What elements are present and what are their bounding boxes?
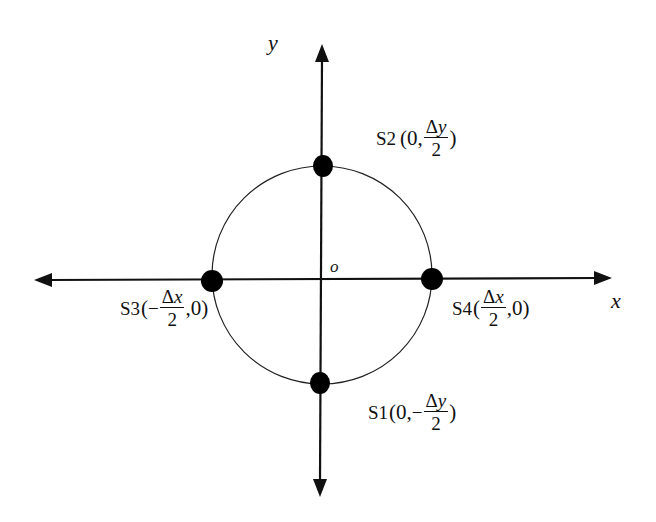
point-s4-name: S4 <box>452 299 472 318</box>
point-s2-prefix: (0, <box>400 128 423 149</box>
x-axis-left-arrow-icon <box>34 273 52 287</box>
point-s3-fraction: Δx 2 <box>160 287 185 329</box>
x-axis-right-arrow-icon <box>594 271 612 285</box>
y-axis <box>313 44 329 497</box>
point-s4-den: 2 <box>489 308 499 329</box>
point-s4-suffix: ,0) <box>507 298 530 319</box>
point-s1-marker <box>310 372 330 394</box>
point-s2-var: y <box>438 116 446 137</box>
x-axis <box>34 271 612 287</box>
delta-symbol: Δ <box>426 390 438 411</box>
y-axis-label: y <box>268 32 278 54</box>
point-s4-prefix: ( <box>473 298 480 319</box>
point-s1-sign: − <box>412 403 423 422</box>
point-s1-prefix: (0, <box>389 402 412 423</box>
point-s4-label: S4 ( Δx 2 ,0) <box>452 287 529 329</box>
point-s1-var: y <box>438 390 446 411</box>
point-s3-label: S3 ( − Δx 2 ,0) <box>120 287 208 329</box>
point-s2-label: S2 (0, Δy 2 ) <box>376 117 456 159</box>
delta-symbol: Δ <box>162 286 174 307</box>
point-s2-den: 2 <box>431 138 441 159</box>
point-s3-prefix: ( <box>141 298 148 319</box>
y-axis-up-arrow-icon <box>315 44 329 62</box>
point-s1-name: S1 <box>368 403 388 422</box>
point-s3-suffix: ,0) <box>185 298 208 319</box>
delta-symbol: Δ <box>426 116 438 137</box>
point-s4-marker <box>421 268 443 290</box>
point-s1-fraction: Δy 2 <box>424 391 449 433</box>
point-s3-name: S3 <box>120 299 140 318</box>
delta-symbol: Δ <box>483 286 495 307</box>
point-s4-var: x <box>495 286 503 307</box>
point-s2-marker <box>313 155 333 177</box>
point-s1-den: 2 <box>431 412 441 433</box>
y-axis-down-arrow-icon <box>313 479 327 497</box>
origin-label: o <box>330 258 339 275</box>
point-s2-suffix: ) <box>449 128 456 149</box>
point-s1-label: S1 (0, − Δy 2 ) <box>368 391 456 433</box>
point-s2-fraction: Δy 2 <box>424 117 449 159</box>
point-s1-suffix: ) <box>449 402 456 423</box>
point-s2-name: S2 <box>376 129 396 148</box>
point-s4-fraction: Δx 2 <box>481 287 506 329</box>
point-s3-sign: − <box>148 299 159 318</box>
x-axis-label: x <box>611 290 621 312</box>
coordinate-diagram <box>0 0 656 522</box>
point-s3-den: 2 <box>167 308 177 329</box>
point-s3-var: x <box>174 286 182 307</box>
